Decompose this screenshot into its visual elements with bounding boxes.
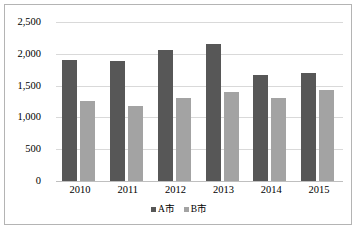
legend-item-a: A市 <box>151 205 175 215</box>
bar-2011-a <box>110 61 125 181</box>
x-axis: 201020112012201320142015 <box>56 185 343 201</box>
chart-legend: A市B市 <box>5 205 353 215</box>
bar-2010-a <box>62 60 77 181</box>
x-axis-tick-label: 2010 <box>56 185 104 196</box>
bar-group <box>56 22 104 181</box>
bar-group <box>152 22 200 181</box>
x-axis-tick-label: 2012 <box>152 185 200 196</box>
bar-2012-a <box>158 50 173 181</box>
y-axis-tick-label: 2,000 <box>0 49 41 60</box>
bar-group <box>295 22 343 181</box>
y-axis-tick-label: 1,500 <box>0 81 41 92</box>
y-axis-tick-label: 1,000 <box>0 112 41 123</box>
bar-2012-b <box>176 98 191 181</box>
x-axis-tick-label: 2013 <box>199 185 247 196</box>
x-axis-line <box>56 181 343 182</box>
legend-swatch-icon <box>184 207 189 212</box>
bar-group <box>247 22 295 181</box>
x-axis-tick-label: 2014 <box>247 185 295 196</box>
legend-label: B市 <box>191 205 207 215</box>
bars-layer <box>56 22 343 181</box>
bar-2014-b <box>271 98 286 181</box>
bar-2011-b <box>128 106 143 181</box>
bar-2014-a <box>253 75 268 181</box>
bar-2015-b <box>319 90 334 181</box>
x-axis-tick-label: 2011 <box>104 185 152 196</box>
bar-2010-b <box>80 101 95 181</box>
legend-label: A市 <box>158 205 175 215</box>
y-axis-tick-label: 2,500 <box>0 17 41 28</box>
bar-2013-b <box>224 92 239 181</box>
legend-item-b: B市 <box>184 205 207 215</box>
legend-swatch-icon <box>151 207 156 212</box>
y-axis-tick-label: 0 <box>0 176 41 187</box>
bar-group <box>200 22 248 181</box>
x-axis-tick-label: 2015 <box>295 185 343 196</box>
bar-2013-a <box>206 44 221 181</box>
bar-group <box>104 22 152 181</box>
chart-frame: 05001,0001,5002,0002,500 201020112012201… <box>4 4 352 225</box>
y-axis-tick-label: 500 <box>0 144 41 155</box>
bar-2015-a <box>301 73 316 181</box>
